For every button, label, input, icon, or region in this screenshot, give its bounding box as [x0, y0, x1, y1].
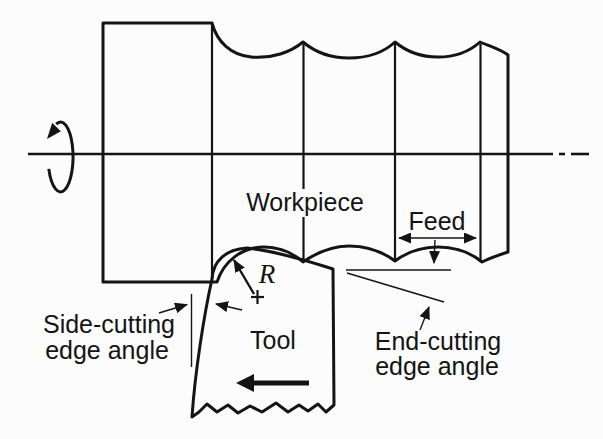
turning-diagram: Workpiece Feed R Tool Side-cutting edge … — [0, 0, 603, 439]
feed-label: Feed — [409, 207, 466, 235]
feed-depth-arrow — [434, 240, 435, 263]
tool-label: Tool — [250, 326, 296, 354]
nose-radius-label: R — [258, 259, 276, 289]
end-cutting-label-line2: edge angle — [375, 352, 499, 380]
tool-feed-direction-arrow — [236, 374, 309, 392]
side-cutting-label-line2: edge angle — [45, 336, 169, 364]
nose-radius-arrow — [234, 260, 254, 294]
rotation-arrow-icon — [47, 122, 73, 192]
workpiece-label: Workpiece — [246, 188, 364, 216]
end-cutting-edge-line — [347, 273, 444, 302]
side-cutting-label-line1: Side-cutting — [43, 310, 175, 338]
side-angle-arrow-right — [216, 304, 242, 310]
workpiece-shape — [103, 23, 508, 282]
end-cutting-label-line1: End-cutting — [375, 327, 501, 355]
